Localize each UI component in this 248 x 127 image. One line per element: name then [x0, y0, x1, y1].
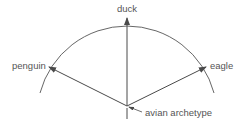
label-penguin: penguin [12, 61, 46, 71]
arrow-eagle [127, 67, 206, 106]
pointer-archetype [129, 107, 142, 112]
arrow-penguin [49, 67, 127, 106]
label-eagle: eagle [210, 61, 233, 71]
label-avian-archetype: avian archetype [145, 108, 212, 118]
label-duck: duck [117, 4, 137, 14]
